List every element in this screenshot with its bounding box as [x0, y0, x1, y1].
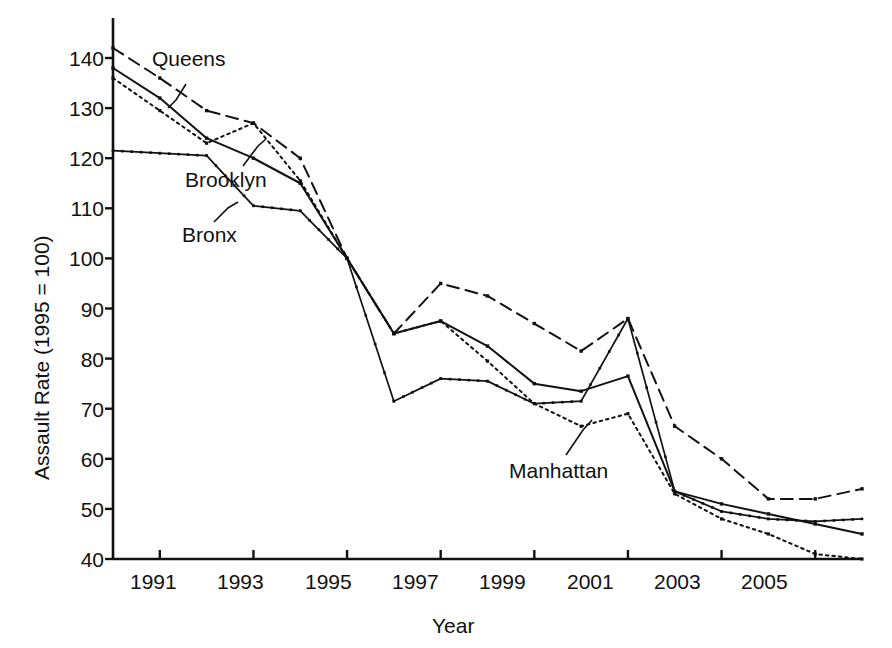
y-tick-50: 50 — [48, 498, 104, 522]
series-label-bronx: Bronx — [182, 223, 237, 247]
x-tick-2005: 2005 — [741, 570, 788, 594]
x-tick-1993: 1993 — [217, 570, 264, 594]
x-tick-1999: 1999 — [479, 570, 526, 594]
y-tick-130: 130 — [48, 97, 104, 121]
series-label-brooklyn: Brooklyn — [185, 168, 267, 192]
y-tick-120: 120 — [48, 147, 104, 171]
y-tick-110: 110 — [48, 197, 104, 221]
x-axis-title: Year — [432, 614, 474, 638]
y-axis-title: Assault Rate (1995 = 100) — [30, 235, 54, 480]
y-tick-100: 100 — [48, 247, 104, 271]
x-tick-2001: 2001 — [567, 570, 614, 594]
x-tick-2003: 2003 — [654, 570, 701, 594]
series-label-manhattan: Manhattan — [509, 459, 608, 483]
assault-rate-line-chart: 140 130 120 110 100 90 80 70 60 50 40 19… — [0, 0, 892, 648]
y-tick-90: 90 — [48, 298, 104, 322]
plot-area — [0, 0, 892, 648]
y-tick-70: 70 — [48, 398, 104, 422]
y-tick-40: 40 — [48, 548, 104, 572]
x-tick-1995: 1995 — [305, 570, 352, 594]
x-tick-1997: 1997 — [392, 570, 439, 594]
series-label-queens: Queens — [152, 47, 226, 71]
x-tick-1991: 1991 — [130, 570, 177, 594]
y-tick-60: 60 — [48, 448, 104, 472]
y-tick-80: 80 — [48, 348, 104, 372]
y-tick-140: 140 — [48, 47, 104, 71]
